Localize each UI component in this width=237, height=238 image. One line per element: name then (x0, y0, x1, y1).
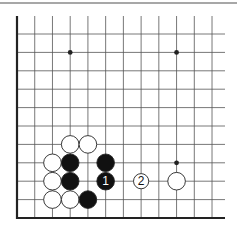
white-stone (61, 191, 79, 209)
black-stone (79, 191, 97, 209)
white-stone (79, 136, 97, 154)
move-number: 1 (102, 174, 109, 188)
black-stone (97, 154, 115, 172)
black-stone (61, 154, 79, 172)
white-stone: 2 (134, 174, 149, 189)
star-point (174, 50, 179, 55)
move-number: 2 (138, 174, 145, 188)
black-stone: 1 (97, 172, 115, 190)
white-stone (44, 172, 62, 190)
white-stone (61, 136, 79, 154)
star-point (68, 50, 73, 55)
black-stone (61, 172, 79, 190)
white-stone (168, 172, 186, 190)
white-stone (44, 191, 62, 209)
stones: 12 (44, 136, 186, 209)
star-point (174, 160, 179, 165)
go-board: 12 (0, 0, 237, 238)
white-stone (44, 154, 62, 172)
